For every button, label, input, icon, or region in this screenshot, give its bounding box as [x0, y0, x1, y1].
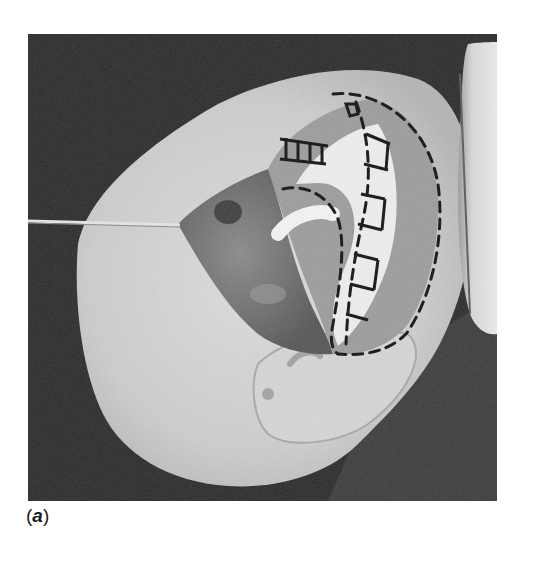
ear-photograph: [28, 34, 497, 501]
caption-close-paren: ): [43, 505, 49, 526]
figure-caption: (a): [26, 505, 49, 527]
caption-label: a: [32, 505, 43, 526]
